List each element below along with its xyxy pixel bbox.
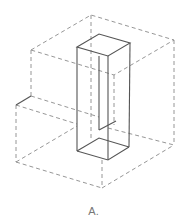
figure-label: A. <box>0 205 187 217</box>
outer-dashed-box <box>16 15 174 188</box>
step-line <box>16 96 31 105</box>
isometric-diagram <box>0 0 187 224</box>
solid-prism <box>77 34 130 160</box>
